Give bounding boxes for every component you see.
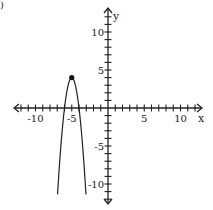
y-tick-label: 5 [98, 65, 104, 76]
x-tick-label: -5 [67, 113, 77, 124]
y-tick-label: 10 [91, 27, 104, 38]
y-tick-label: -5 [94, 141, 104, 152]
x-tick-label: 5 [141, 113, 147, 124]
x-tick-label: -10 [27, 113, 43, 124]
y-axis-label: y [112, 10, 120, 23]
corner-mark: ) [0, 0, 4, 10]
vertex-point [69, 75, 74, 80]
x-axis-label: x [198, 112, 205, 125]
coordinate-graph: ) -10-5510105-5-10 x y [0, 0, 213, 210]
parabola-curve [58, 78, 86, 195]
highlighted-points [69, 75, 74, 80]
y-tick-label: -10 [88, 179, 104, 190]
x-tick-label: 10 [174, 113, 187, 124]
